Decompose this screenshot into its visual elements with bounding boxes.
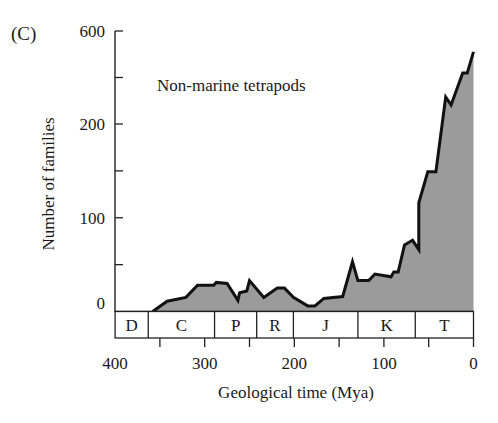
x-tick-label: 200	[282, 354, 308, 373]
period-label-c: C	[176, 316, 187, 335]
x-tick-label: 100	[371, 354, 397, 373]
period-label-d: D	[126, 316, 138, 335]
period-bar-frame	[115, 312, 473, 339]
x-axis-title: Geological time (Mya)	[218, 383, 374, 402]
series-annotation: Non-marine tetrapods	[157, 76, 306, 95]
tetrapod-families-chart: (C) 0100200600 DCPRJKT 4003002001000 Non…	[0, 0, 498, 423]
period-label-r: R	[269, 316, 281, 335]
period-label-k: K	[380, 316, 393, 335]
y-tick-label: 0	[97, 294, 106, 313]
period-bar: DCPRJKT	[115, 312, 473, 339]
y-axis-title: Number of families	[39, 117, 58, 250]
y-tick-label: 600	[80, 22, 106, 41]
period-label-j: J	[322, 316, 329, 335]
y-tick-label: 100	[80, 209, 106, 228]
x-tick-label: 400	[102, 354, 128, 373]
panel-label: (C)	[11, 23, 36, 45]
period-label-p: P	[231, 316, 240, 335]
x-tick-label: 300	[192, 354, 218, 373]
period-label-t: T	[439, 316, 450, 335]
x-tick-label: 0	[469, 354, 478, 373]
y-tick-label: 200	[80, 115, 106, 134]
y-ticks: 0100200600	[80, 22, 124, 313]
x-ticks: 4003002001000	[102, 338, 477, 373]
